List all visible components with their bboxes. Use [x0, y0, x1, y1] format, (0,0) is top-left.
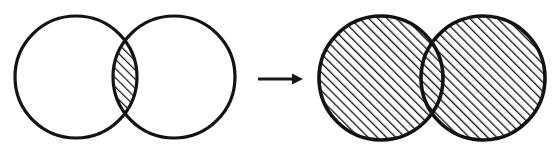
set-operation-figure: Venn diagram set-operation transformatio… [0, 0, 556, 151]
arrow-glyph [258, 74, 303, 85]
intersection-diagram [0, 0, 278, 151]
transformation-arrow [258, 74, 303, 85]
figure-root: Venn diagram set-operation transformatio… [0, 0, 556, 151]
union-diagram [300, 0, 556, 151]
